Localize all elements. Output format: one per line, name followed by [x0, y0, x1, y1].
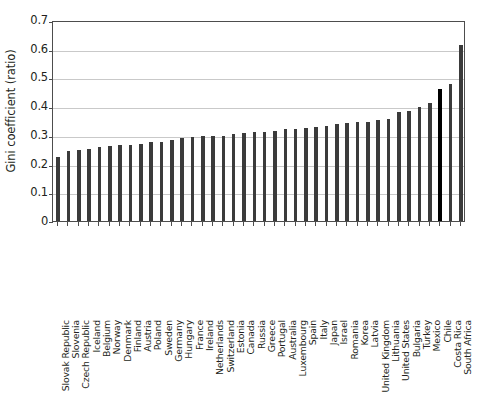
bar: [139, 144, 143, 221]
x-axis-label: Japan: [329, 320, 338, 345]
x-tick-mark: [377, 222, 378, 226]
bar: [118, 145, 122, 221]
x-axis-label: Lithuania: [391, 320, 400, 362]
x-axis-label: Estonia: [236, 320, 245, 353]
x-axis-label: Costa Rica: [453, 320, 462, 368]
x-axis-label: Romania: [350, 320, 359, 360]
x-tick-mark: [315, 222, 316, 226]
x-axis-label: Iceland: [92, 320, 101, 353]
x-tick-mark: [150, 222, 151, 226]
x-tick-mark: [160, 222, 161, 226]
x-tick-mark: [109, 222, 110, 226]
x-tick-mark: [346, 222, 347, 226]
x-axis-label: Norway: [112, 320, 121, 354]
bar: [98, 147, 102, 221]
x-tick-mark: [233, 222, 234, 226]
bar: [222, 136, 226, 221]
bar: [418, 107, 422, 221]
bar: [273, 131, 277, 221]
x-axis-label: Greece: [267, 320, 276, 352]
bar: [366, 122, 370, 221]
x-tick-mark: [439, 222, 440, 226]
x-tick-mark: [140, 222, 141, 226]
x-tick-mark: [357, 222, 358, 226]
x-axis-label: Luxembourg: [298, 320, 307, 376]
x-axis-label: Portugal: [277, 320, 286, 357]
x-tick-mark: [67, 222, 68, 226]
x-axis-label: France: [195, 320, 204, 350]
bar: [284, 129, 288, 221]
x-tick-mark: [367, 222, 368, 226]
y-tick-label: 0.1: [18, 188, 48, 200]
bar: [108, 146, 112, 221]
bar: [325, 126, 329, 221]
x-tick-mark: [408, 222, 409, 226]
bar: [438, 89, 442, 221]
x-axis-label: Ireland: [205, 320, 214, 351]
x-tick-mark: [243, 222, 244, 226]
x-tick-mark: [460, 222, 461, 226]
bar: [56, 157, 60, 221]
bar: [211, 136, 215, 221]
x-axis-label: Poland: [153, 320, 162, 350]
x-axis-label: Belgium: [102, 320, 111, 357]
x-tick-mark: [88, 222, 89, 226]
bar: [242, 133, 246, 221]
bar: [77, 150, 81, 221]
x-axis-label: Denmark: [123, 320, 132, 362]
x-tick-mark: [336, 222, 337, 226]
bar: [397, 112, 401, 221]
x-axis-label: Latvia: [370, 320, 379, 347]
bar: [294, 129, 298, 221]
x-axis-label: Bulgaria: [412, 320, 421, 357]
bar: [335, 124, 339, 221]
x-axis-label: Finland: [133, 320, 142, 352]
x-axis-label: Slovak Republic: [61, 320, 70, 391]
x-axis-label: South Africa: [463, 320, 472, 375]
y-tick-label: 0.7: [18, 15, 48, 27]
x-tick-mark: [78, 222, 79, 226]
bar: [170, 140, 174, 221]
x-tick-mark: [98, 222, 99, 226]
x-tick-mark: [171, 222, 172, 226]
bar: [149, 142, 153, 221]
x-axis-label: United Kingdom: [381, 320, 390, 393]
bar: [263, 132, 267, 221]
x-axis-label: Chile: [443, 320, 452, 343]
x-tick-mark: [388, 222, 389, 226]
x-axis-label: Italy: [319, 320, 328, 339]
x-tick-mark: [305, 222, 306, 226]
y-tick-label: 0.4: [18, 101, 48, 113]
x-tick-mark: [284, 222, 285, 226]
y-tick-label: 0: [18, 216, 48, 228]
x-tick-mark: [264, 222, 265, 226]
x-axis-label: Korea: [360, 320, 369, 346]
x-tick-mark: [119, 222, 120, 226]
bar: [191, 137, 195, 221]
x-axis-label: Czech Republic: [81, 320, 90, 389]
bar: [253, 132, 257, 221]
x-tick-mark: [274, 222, 275, 226]
bar: [160, 142, 164, 221]
x-axis-tick-marks: [52, 222, 465, 227]
y-axis-tick-labels: 00.10.20.30.40.50.60.7: [18, 0, 48, 322]
x-axis-label: Canada: [246, 320, 255, 354]
bar: [67, 151, 71, 221]
y-tick-label: 0.2: [18, 159, 48, 171]
x-tick-mark: [191, 222, 192, 226]
bar: [387, 119, 391, 221]
x-tick-mark: [326, 222, 327, 226]
bar: [345, 123, 349, 221]
bar: [428, 103, 432, 221]
x-axis-label: Mexico: [432, 320, 441, 352]
x-tick-mark: [295, 222, 296, 226]
bar: [232, 134, 236, 221]
x-axis-label: Hungary: [184, 320, 193, 359]
x-axis-label: Slovenia: [71, 320, 80, 358]
x-axis-category-labels: Slovak RepublicSloveniaCzech RepublicIce…: [52, 228, 465, 322]
x-tick-mark: [419, 222, 420, 226]
x-tick-mark: [222, 222, 223, 226]
plot-area: [52, 21, 465, 222]
bar: [376, 120, 380, 221]
bar: [449, 84, 453, 221]
